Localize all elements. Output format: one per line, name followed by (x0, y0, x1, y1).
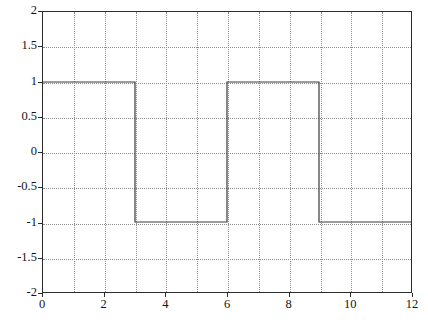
figure-canvas: 024681012 21.510.50-0.5-1-1.5-2 (0, 0, 428, 322)
x-axis-tick-label: 4 (145, 297, 185, 311)
x-axis-tick-label: 12 (392, 297, 428, 311)
x-axis-tick-label: 8 (269, 297, 309, 311)
y-axis-tick-label: 1.5 (1, 39, 37, 52)
y-axis-tick (38, 11, 42, 12)
y-axis-tick (38, 82, 42, 83)
y-axis-tick-label: 1 (1, 75, 37, 88)
y-axis-tick-label: 0.5 (1, 110, 37, 123)
y-axis-tick (38, 117, 42, 118)
y-axis-tick (38, 187, 42, 188)
plot-area (42, 11, 412, 293)
y-axis-tick-label: 0 (1, 145, 37, 158)
y-axis-tick (38, 223, 42, 224)
y-axis-tick (38, 258, 42, 259)
y-axis-tick-label: -0.5 (1, 180, 37, 193)
x-axis-tick-label: 10 (330, 297, 370, 311)
data-trace-square-wave (43, 12, 411, 292)
y-axis-tick-label: 2 (1, 4, 37, 17)
x-axis-tick-label: 6 (207, 297, 247, 311)
y-axis-tick (38, 293, 42, 294)
y-axis-tick-label: -2 (1, 286, 37, 299)
y-axis-tick-label: -1.5 (1, 251, 37, 264)
series-line-square-wave (43, 82, 411, 222)
y-axis-tick (38, 46, 42, 47)
x-axis-tick-label: 0 (22, 297, 62, 311)
y-axis-tick-label: -1 (1, 216, 37, 229)
y-axis-tick (38, 152, 42, 153)
x-axis-tick-label: 2 (84, 297, 124, 311)
